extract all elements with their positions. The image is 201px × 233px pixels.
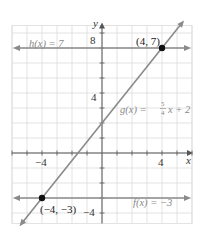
h-line-arrow-end-icon bbox=[184, 45, 191, 51]
h-function-label: h(x) = 7 bbox=[29, 38, 64, 50]
f-line-arrow-start-icon bbox=[13, 195, 20, 201]
x-axis-label: x bbox=[185, 154, 191, 166]
function-graph: x y −4 4 8 4 −4 h(x) = 7 f(x) = −3 g(x) … bbox=[0, 0, 201, 233]
y-tick-label-neg4: −4 bbox=[83, 206, 95, 218]
g-function-label-prefix: g(x) = bbox=[120, 104, 149, 116]
point-neg4-neg3 bbox=[39, 195, 45, 201]
y-tick-label-8: 8 bbox=[90, 34, 96, 46]
h-line-arrow-start-icon bbox=[13, 45, 20, 51]
x-tick-label-4: 4 bbox=[158, 156, 164, 168]
x-tick-label-neg4: −4 bbox=[35, 156, 47, 168]
labels: x y −4 4 8 4 −4 h(x) = 7 f(x) = −3 g(x) … bbox=[29, 17, 191, 218]
point-label-4-7: (4, 7) bbox=[136, 35, 160, 48]
g-fraction-denominator: 4 bbox=[161, 109, 165, 117]
f-line-arrow-end-icon bbox=[184, 195, 191, 201]
f-function-label: f(x) = −3 bbox=[133, 197, 172, 209]
g-fraction-numerator: 5 bbox=[161, 100, 165, 108]
y-axis-label: y bbox=[92, 17, 98, 29]
point-label-neg4-neg3: (−4, −3) bbox=[40, 203, 77, 216]
y-tick-label-4: 4 bbox=[91, 91, 97, 103]
g-function-label-suffix: x + 2 bbox=[167, 104, 191, 115]
